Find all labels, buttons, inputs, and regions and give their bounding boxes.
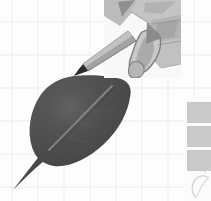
stylus-needle	[0, 0, 211, 201]
figure-canvas: Leaf with hand-held stylus	[0, 0, 211, 201]
stylus-highlight	[83, 31, 132, 67]
